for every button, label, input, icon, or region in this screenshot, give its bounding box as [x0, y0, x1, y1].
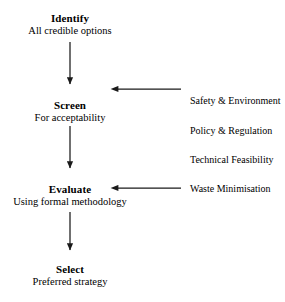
node-identify-subtitle: All credible options [28, 25, 111, 37]
node-identify: Identify All credible options [28, 12, 111, 37]
node-select-subtitle: Preferred strategy [33, 276, 108, 288]
node-evaluate-title: Evaluate [13, 183, 127, 196]
criterion-technical-feasibility: Technical Feasibility [190, 155, 273, 165]
criterion-policy-regulation: Policy & Regulation [190, 126, 272, 136]
node-select-title: Select [33, 263, 108, 276]
node-evaluate-subtitle: Using formal methodology [13, 196, 127, 208]
node-select: Select Preferred strategy [33, 263, 108, 288]
node-screen-subtitle: For acceptability [35, 112, 106, 124]
node-screen-title: Screen [35, 99, 106, 112]
node-screen: Screen For acceptability [35, 99, 106, 124]
criterion-waste-minimisation: Waste Minimisation [190, 184, 271, 194]
flowchart-diagram: Identify All credible options Screen For… [0, 0, 285, 302]
arrow-layer [0, 0, 285, 302]
criterion-safety-environment: Safety & Environment [190, 96, 281, 106]
node-identify-title: Identify [28, 12, 111, 25]
node-evaluate: Evaluate Using formal methodology [13, 183, 127, 208]
